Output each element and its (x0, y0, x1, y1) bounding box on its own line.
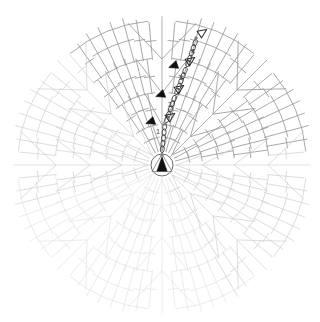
slip-stitch-dot (163, 122, 166, 125)
generated-stitch-layer (13, 16, 310, 313)
round-number-label: 2 (168, 101, 172, 108)
motif-diagram: 1234 (0, 0, 320, 322)
crochet-chart-canvas: 1234 (0, 0, 320, 322)
round-number-label: 1 (156, 128, 160, 135)
slip-stitch-dot (194, 36, 197, 39)
round-number-label: 4 (191, 48, 195, 55)
round-start-marker (154, 90, 165, 101)
round-number-label: 3 (179, 74, 183, 81)
slip-stitch-dot (160, 153, 163, 156)
